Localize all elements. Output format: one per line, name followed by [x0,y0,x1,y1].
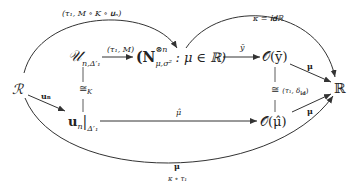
N-symbol: (𝐍 [136,49,155,65]
iso-right-symbol: ≅ [271,84,279,95]
node-calligraphic-R: ℛ [12,82,23,96]
node-R-blackboard: ℝ [334,81,346,95]
iso-left-subscript: K [87,88,92,96]
arrow-bottom-arc [25,96,333,163]
node-u-restricted: 𝐮n|Δ′₁ [68,114,98,128]
iso-right: ≅ (τ₁, δid) [271,85,308,95]
iso-right-label: (τ₁, δ [282,87,300,95]
U-subscript: n,Δ′₁ [82,59,101,68]
node-U-n-delta: 𝒰n,Δ′₁ [68,49,101,64]
N-subscript: μ,σ² [155,60,171,68]
label-u-to-Omu: μ̂ [176,109,181,117]
iso-right-label-sub: id [300,90,305,96]
label-O-to-R: μ [307,62,313,70]
iso-left: ≅K [79,84,92,94]
label-bottom-arc-top: μ [174,162,180,170]
node-N-family: (𝐍 ⊗n μ,σ² : μ ∈ ℝ) [136,50,226,64]
u-subscript: n [77,122,82,131]
label-Omu-to-R: μ [307,107,313,115]
label-R-to-u: 𝐮ₙ [41,92,51,100]
restriction-subscript: Δ′₁ [87,124,98,133]
iso-left-symbol: ≅ [79,83,87,94]
U-symbol: 𝒰 [68,47,82,65]
node-O-muhat: 𝒪(μ̂) [260,115,287,128]
label-N-to-O: ȳ [240,44,245,52]
label-top-arc: (τ₁, M ∘ K ∘ 𝐮ₙ) [62,10,121,18]
node-O-ybar: 𝒪(ȳ) [262,50,288,63]
label-bottom-arc-bottom: κ ∘ τ₁ [168,176,187,183]
label-top-right-arc: κ = 𝐢𝐝ℝ [253,15,283,23]
label-U-to-N: (τ₁, M) [107,46,134,54]
N-superscript: ⊗n [155,46,167,54]
N-rest: : μ ∈ ℝ) [175,50,226,65]
iso-right-label-end: ) [306,87,309,95]
